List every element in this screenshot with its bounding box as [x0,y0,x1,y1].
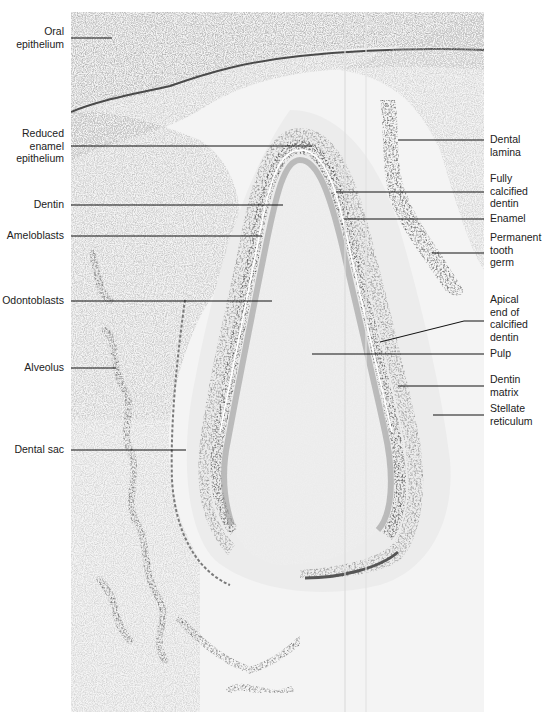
label-line: Oral [16,25,64,38]
label-apical-end-of-calcified-dentin: Apical end of calcified dentin [490,293,528,343]
label-line: calcified [490,318,528,331]
micrograph-image [0,0,548,717]
label-line: matrix [490,386,520,399]
label-pulp: Pulp [490,347,511,360]
label-enamel: Enamel [490,212,526,225]
label-line: Stellate [490,402,533,415]
label-permanent-tooth-germ: Permanent tooth germ [490,231,541,269]
label-ameloblasts: Ameloblasts [7,229,64,242]
label-line: epithelium [16,152,64,165]
label-line: Dental sac [14,443,64,456]
label-line: tooth [490,244,541,257]
label-line: Reduced [16,127,64,140]
label-stellate-reticulum: Stellate reticulum [490,402,533,427]
label-line: Dentin [34,198,64,211]
label-line: Ameloblasts [7,229,64,242]
label-line: Dentin [490,373,520,386]
label-line: calcified [490,185,528,198]
label-dentin-matrix: Dentin matrix [490,373,520,398]
label-line: Apical [490,293,528,306]
label-oral-epithelium: Oral epithelium [16,25,64,50]
label-line: epithelium [16,38,64,51]
label-line: enamel [16,140,64,153]
label-line: Fully [490,172,528,185]
label-line: dentin [490,197,528,210]
label-odontoblasts: Odontoblasts [2,294,64,307]
label-line: lamina [490,146,521,159]
label-fully-calcified-dentin: Fully calcified dentin [490,172,528,210]
label-dentin: Dentin [34,198,64,211]
label-line: Odontoblasts [2,294,64,307]
label-line: Pulp [490,347,511,360]
label-line: germ [490,256,541,269]
label-line: Alveolus [24,361,64,374]
label-dental-lamina: Dental lamina [490,133,521,158]
label-reduced-enamel-epithelium: Reduced enamel epithelium [16,127,64,165]
label-dental-sac: Dental sac [14,443,64,456]
label-line: Enamel [490,212,526,225]
label-line: Permanent [490,231,541,244]
label-alveolus: Alveolus [24,361,64,374]
tooth-histology-figure: Oral epithelium Reduced enamel epitheliu… [0,0,548,717]
label-line: reticulum [490,415,533,428]
label-line: end of [490,306,528,319]
label-line: dentin [490,331,528,344]
label-line: Dental [490,133,521,146]
